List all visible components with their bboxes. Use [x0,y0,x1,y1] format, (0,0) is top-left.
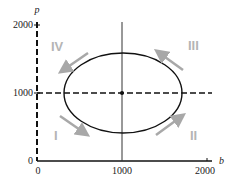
arrow-quadrant-IV [62,53,88,71]
quadrant-label-II: II [190,128,197,143]
x-tick-1000: 1000 [112,165,132,176]
y-axis-label: p [34,4,40,15]
equilibrium-point [120,91,124,95]
quadrant-label-III: III [188,38,199,53]
arrow-quadrant-III [158,52,183,70]
arrow-quadrant-I [60,116,86,134]
x-tick-2000: 2000 [195,165,215,176]
y-tick-2000: 2000 [13,19,33,30]
phase-plane-diagram: IV III I II 2000 1000 0 0 1000 2000 p b [0,0,241,186]
x-tick-0: 0 [36,165,41,176]
quadrant-label-IV: IV [51,39,64,54]
x-axis-label: b [219,155,224,166]
y-tick-1000: 1000 [13,87,33,98]
quadrant-label-I: I [54,128,58,143]
y-tick-0: 0 [28,155,33,166]
